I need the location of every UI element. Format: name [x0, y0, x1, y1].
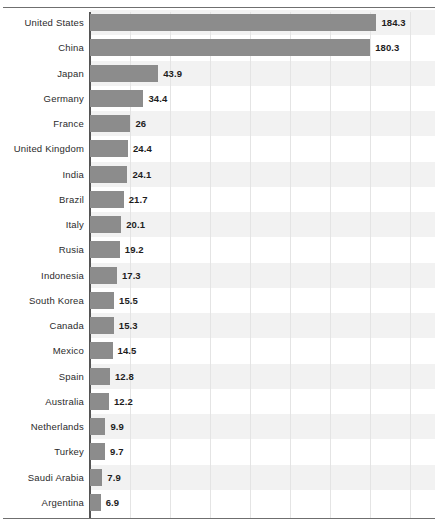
bar: [90, 166, 127, 183]
category-label: United Kingdom: [0, 140, 84, 157]
bar: [90, 267, 117, 284]
bar-row: Argentina6.9: [0, 494, 438, 511]
category-label: Rusia: [0, 241, 84, 258]
bar-row: Germany34.4: [0, 90, 438, 107]
category-label: South Korea: [0, 292, 84, 309]
chart-top-rule: [3, 7, 435, 8]
category-label: Canada: [0, 317, 84, 334]
category-label: Japan: [0, 65, 84, 82]
bar: [90, 216, 121, 233]
bar-row: Saudi Arabia7.9: [0, 469, 438, 486]
bar-value-label: 17.3: [122, 267, 141, 284]
bar-row: Canada15.3: [0, 317, 438, 334]
bar: [90, 115, 130, 132]
bar-row: Rusia19.2: [0, 241, 438, 258]
gridline-5: [330, 12, 331, 518]
bar-value-label: 15.3: [119, 317, 138, 334]
bar: [90, 469, 102, 486]
bar: [90, 418, 105, 435]
bar-row: Turkey9.7: [0, 443, 438, 460]
bar-row: Spain12.8: [0, 368, 438, 385]
bar-value-label: 14.5: [118, 342, 137, 359]
bar-value-label: 19.2: [125, 241, 144, 258]
bar-value-label: 180.3: [375, 39, 399, 56]
bar: [90, 140, 128, 157]
gridline-2: [210, 12, 211, 518]
bar-row: Netherlands9.9: [0, 418, 438, 435]
bar-row: United Kingdom24.4: [0, 140, 438, 157]
category-label: Turkey: [0, 443, 84, 460]
bar-row: Australia12.2: [0, 393, 438, 410]
bar: [90, 14, 376, 31]
bar: [90, 191, 124, 208]
bar: [90, 90, 143, 107]
bar: [90, 292, 114, 309]
bar-chart: United States184.3China180.3Japan43.9Ger…: [0, 0, 438, 528]
gridline-3: [250, 12, 251, 518]
bar: [90, 317, 114, 334]
bar-value-label: 21.7: [129, 191, 148, 208]
bar-value-label: 34.4: [148, 90, 167, 107]
category-label: Germany: [0, 90, 84, 107]
gridline-7: [410, 12, 411, 518]
category-label: Italy: [0, 216, 84, 233]
bar-row: China180.3: [0, 39, 438, 56]
bar-row: Brazil21.7: [0, 191, 438, 208]
bar-row: Indonesia17.3: [0, 267, 438, 284]
bar: [90, 39, 370, 56]
category-label: Brazil: [0, 191, 84, 208]
gridline-0: [130, 12, 131, 518]
category-label: Spain: [0, 368, 84, 385]
category-label: France: [0, 115, 84, 132]
category-label: Indonesia: [0, 267, 84, 284]
bar: [90, 241, 120, 258]
bar-value-label: 9.9: [110, 418, 124, 435]
chart-bottom-rule: [3, 518, 435, 519]
gridline-1: [170, 12, 171, 518]
bar-value-label: 24.4: [133, 140, 152, 157]
bar-value-label: 7.9: [107, 469, 121, 486]
category-label: Netherlands: [0, 418, 84, 435]
bar-value-label: 20.1: [126, 216, 145, 233]
bar-value-label: 9.7: [110, 443, 124, 460]
bar-value-label: 12.2: [114, 393, 133, 410]
category-label: Mexico: [0, 342, 84, 359]
category-label: United States: [0, 14, 84, 31]
gridline-6: [370, 12, 371, 518]
bar-value-label: 12.8: [115, 368, 134, 385]
category-axis-line: [89, 12, 91, 518]
bar-row: United States184.3: [0, 14, 438, 31]
bar: [90, 393, 109, 410]
bar-value-label: 43.9: [163, 65, 182, 82]
bar: [90, 65, 158, 82]
plot-area: United States184.3China180.3Japan43.9Ger…: [0, 12, 438, 518]
bar-row: Mexico14.5: [0, 342, 438, 359]
bar-value-label: 6.9: [106, 494, 120, 511]
bar-value-label: 26: [135, 115, 146, 132]
bar-row: Italy20.1: [0, 216, 438, 233]
bar: [90, 494, 101, 511]
bar-row: South Korea15.5: [0, 292, 438, 309]
bar-value-label: 24.1: [132, 166, 151, 183]
bar: [90, 443, 105, 460]
bar-value-label: 15.5: [119, 292, 138, 309]
bar-row: France26: [0, 115, 438, 132]
bar: [90, 368, 110, 385]
category-label: Saudi Arabia: [0, 469, 84, 486]
bar: [90, 342, 113, 359]
category-label: Australia: [0, 393, 84, 410]
gridline-4: [290, 12, 291, 518]
bar-value-label: 184.3: [381, 14, 405, 31]
category-label: India: [0, 166, 84, 183]
bar-row: India24.1: [0, 166, 438, 183]
category-label: China: [0, 39, 84, 56]
bar-row: Japan43.9: [0, 65, 438, 82]
category-label: Argentina: [0, 494, 84, 511]
